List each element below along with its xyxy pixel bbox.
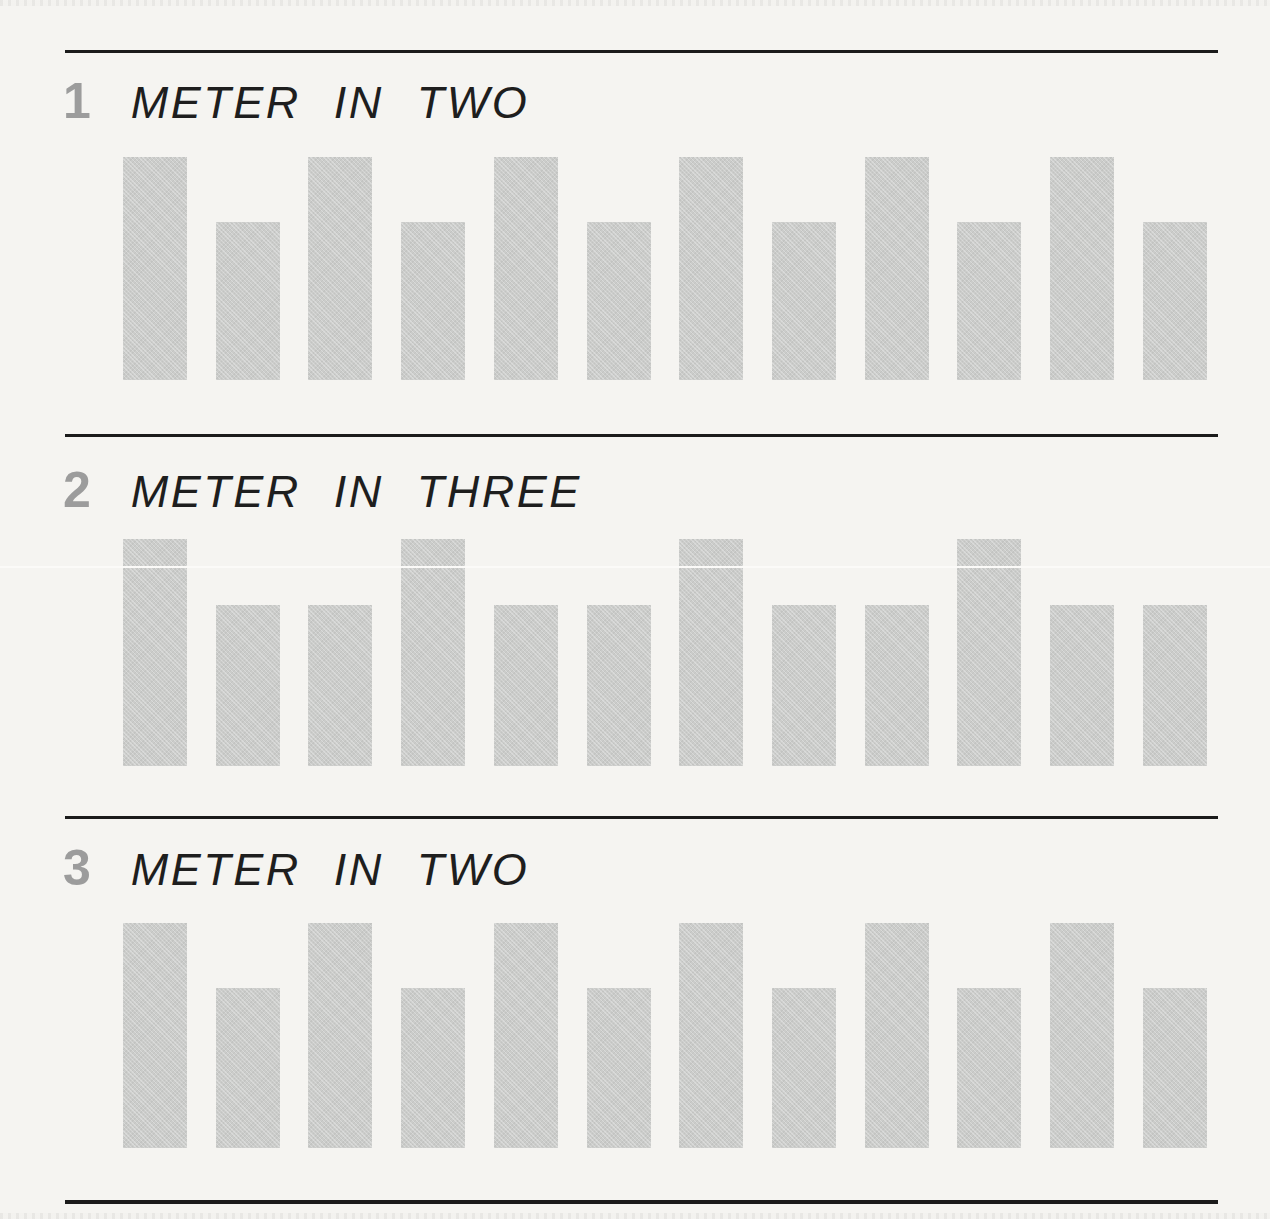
weak-beat-bar bbox=[494, 605, 558, 766]
section-number-1: 1 bbox=[63, 76, 91, 126]
weak-beat-bar bbox=[401, 988, 465, 1148]
weak-beat-bar bbox=[865, 605, 929, 766]
strong-beat-bar bbox=[865, 923, 929, 1148]
strong-beat-bar bbox=[1050, 923, 1114, 1148]
strong-beat-bar bbox=[1050, 157, 1114, 380]
strong-beat-bar bbox=[957, 539, 1021, 766]
beat-bars-group-2 bbox=[123, 539, 1207, 766]
weak-beat-bar bbox=[772, 605, 836, 766]
strong-beat-bar bbox=[679, 157, 743, 380]
weak-beat-bar bbox=[1143, 222, 1207, 380]
strong-beat-bar bbox=[679, 539, 743, 766]
weak-beat-bar bbox=[957, 988, 1021, 1148]
weak-beat-bar bbox=[772, 222, 836, 380]
weak-beat-bar bbox=[216, 222, 280, 380]
weak-beat-bar bbox=[1143, 605, 1207, 766]
weak-beat-bar bbox=[772, 988, 836, 1148]
weak-beat-bar bbox=[587, 605, 651, 766]
weak-beat-bar bbox=[308, 605, 372, 766]
section-heading-1: 1 METER IN TWO bbox=[63, 76, 529, 126]
strong-beat-bar bbox=[865, 157, 929, 380]
section-number-3: 3 bbox=[63, 843, 91, 893]
section-title-1: METER IN TWO bbox=[131, 80, 529, 125]
strong-beat-bar bbox=[494, 923, 558, 1148]
section-heading-2: 2 METER IN THREE bbox=[63, 465, 582, 515]
strong-beat-bar bbox=[494, 157, 558, 380]
weak-beat-bar bbox=[1143, 988, 1207, 1148]
weak-beat-bar bbox=[587, 222, 651, 380]
beat-bars-group-3 bbox=[123, 923, 1207, 1148]
section-title-2: METER IN THREE bbox=[131, 469, 582, 514]
section-divider-rule-2 bbox=[65, 434, 1218, 437]
strong-beat-bar bbox=[123, 923, 187, 1148]
section-divider-rule-3 bbox=[65, 816, 1218, 819]
strong-beat-bar bbox=[679, 923, 743, 1148]
weak-beat-bar bbox=[957, 222, 1021, 380]
strong-beat-bar bbox=[123, 539, 187, 766]
section-divider-rule-1 bbox=[65, 50, 1218, 53]
section-number-2: 2 bbox=[63, 465, 91, 515]
section-title-3: METER IN TWO bbox=[131, 847, 529, 892]
weak-beat-bar bbox=[401, 222, 465, 380]
strong-beat-bar bbox=[401, 539, 465, 766]
scan-artifact-line bbox=[0, 566, 1270, 568]
weak-beat-bar bbox=[587, 988, 651, 1148]
strong-beat-bar bbox=[123, 157, 187, 380]
section-heading-3: 3 METER IN TWO bbox=[63, 843, 529, 893]
weak-beat-bar bbox=[216, 988, 280, 1148]
beat-bars-group-1 bbox=[123, 157, 1207, 380]
weak-beat-bar bbox=[216, 605, 280, 766]
weak-beat-bar bbox=[1050, 605, 1114, 766]
bottom-rule bbox=[65, 1200, 1218, 1204]
strong-beat-bar bbox=[308, 157, 372, 380]
strong-beat-bar bbox=[308, 923, 372, 1148]
book-page: 1 METER IN TWO 2 METER IN THREE 3 METER … bbox=[0, 0, 1270, 1219]
